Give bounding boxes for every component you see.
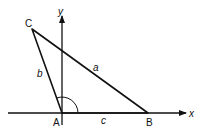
x-axis-label: x xyxy=(188,108,195,119)
vertex-label-c: C xyxy=(25,18,32,29)
side-label-b: b xyxy=(37,68,43,79)
vertex-label-a: A xyxy=(53,117,60,128)
y-axis-label: y xyxy=(57,6,64,17)
vertex-label-b: B xyxy=(146,117,153,128)
side-label-c: c xyxy=(101,115,106,126)
triangle-diagram: y x C A B b a c xyxy=(0,0,206,133)
triangle-abc xyxy=(32,29,148,113)
side-label-a: a xyxy=(93,62,99,73)
